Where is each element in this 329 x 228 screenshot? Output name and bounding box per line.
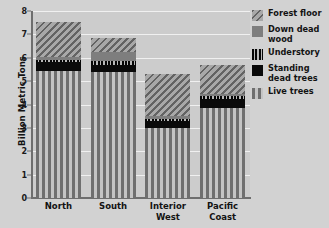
legend-label-line: Live trees (268, 87, 314, 97)
bar-segment (200, 94, 245, 96)
y-axis-tick-label: 2 (13, 147, 27, 156)
bar-segment (145, 128, 190, 198)
bar-segment (36, 71, 81, 198)
bar-segment (200, 96, 245, 98)
x-axis-label-line: Pacific (184, 201, 262, 212)
y-axis-tick-mark (27, 34, 31, 35)
bar-segment (145, 116, 190, 118)
legend: Forest floorDown deadwoodUnderstoryStand… (252, 9, 329, 103)
legend-item: Forest floor (252, 9, 329, 21)
bar-segment (91, 72, 136, 198)
y-axis-tick-label: 4 (13, 100, 27, 109)
bar (36, 22, 81, 198)
legend-item: Live trees (252, 87, 329, 99)
bar-segment (91, 61, 136, 65)
stacked-bar-chart: Billion Metric Tons 012345678 NorthSouth… (0, 0, 329, 228)
legend-label-line: wood (268, 35, 319, 45)
x-axis-label-line: Coast (184, 212, 262, 223)
bar-segment (200, 108, 245, 198)
bar (200, 65, 245, 198)
legend-swatch-icon (252, 65, 263, 76)
legend-label: Standingdead trees (268, 64, 318, 83)
legend-label-line: Forest floor (268, 9, 321, 19)
bar-segment (91, 65, 136, 72)
bar (91, 38, 136, 198)
legend-item: Understory (252, 48, 329, 60)
y-axis-tick-mark (27, 81, 31, 82)
y-axis-tick-mark (27, 104, 31, 105)
bar-segment (36, 60, 81, 62)
y-axis-line (31, 11, 33, 199)
legend-swatch-icon (252, 88, 263, 99)
y-axis-tick-label: 8 (13, 7, 27, 16)
bar-segment (145, 121, 190, 128)
legend-swatch-icon (252, 26, 263, 37)
y-axis-tick-label: 6 (13, 53, 27, 62)
legend-label-line: Understory (268, 48, 320, 58)
y-axis-tick-mark (27, 11, 31, 12)
y-axis-tick-label: 7 (13, 30, 27, 39)
y-axis-tick-mark (27, 151, 31, 152)
gridline (31, 11, 250, 12)
y-axis-tick-mark (27, 57, 31, 58)
bar-segment (200, 99, 245, 108)
legend-label-line: dead trees (268, 74, 318, 84)
legend-swatch-icon (252, 10, 263, 21)
bar-segment (91, 52, 136, 61)
legend-item: Standingdead trees (252, 64, 329, 83)
bar-segment (200, 65, 245, 94)
bar-segment (36, 62, 81, 70)
y-axis-tick-mark (27, 198, 31, 199)
legend-swatch-icon (252, 49, 263, 60)
legend-label: Forest floor (268, 9, 321, 19)
y-axis-tick-mark (27, 127, 31, 128)
y-axis-tick-label: 5 (13, 77, 27, 86)
legend-label: Live trees (268, 87, 314, 97)
bar-segment (145, 119, 190, 121)
legend-label: Down deadwood (268, 25, 319, 44)
x-axis-label: PacificCoast (184, 201, 262, 223)
bar-segment (91, 38, 136, 52)
bar-segment (36, 57, 81, 61)
y-axis-tick-label: 3 (13, 123, 27, 132)
bar (145, 74, 190, 198)
bar-segment (36, 22, 81, 57)
legend-item: Down deadwood (252, 25, 329, 44)
y-axis-tick-mark (27, 174, 31, 175)
y-axis-tick-label: 1 (13, 170, 27, 179)
bar-segment (145, 74, 190, 116)
legend-label: Understory (268, 48, 320, 58)
